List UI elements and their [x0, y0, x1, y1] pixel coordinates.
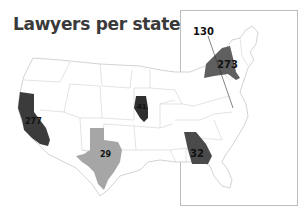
- label-georgia: 32: [190, 148, 204, 159]
- label-dc: 130: [193, 26, 214, 37]
- label-texas: 29: [100, 150, 112, 159]
- label-new-york: 273: [217, 59, 238, 70]
- us-map: 277 29 41 32 273 130: [0, 0, 302, 217]
- label-illinois: 41: [137, 103, 147, 111]
- label-california: 277: [25, 117, 42, 126]
